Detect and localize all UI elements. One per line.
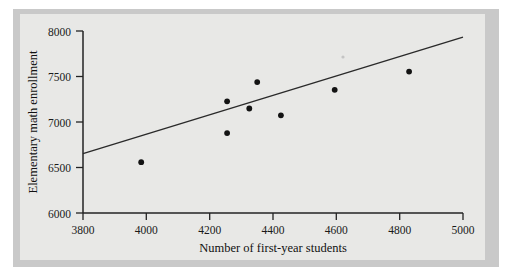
regression-line	[83, 37, 463, 154]
x-axis-ticks	[83, 213, 463, 220]
y-axis-title: Elementary math enrollment	[26, 50, 40, 194]
data-points	[138, 69, 412, 165]
y-tick-label-7000: 7000	[48, 117, 71, 129]
x-tick-label-5000: 5000	[452, 224, 475, 236]
x-tick-label-3800: 3800	[72, 224, 95, 236]
x-tick-label-4400: 4400	[262, 224, 285, 236]
x-tick-label-4200: 4200	[198, 224, 221, 236]
data-point	[246, 106, 252, 112]
data-point	[224, 130, 230, 136]
data-point	[406, 69, 412, 75]
data-point	[254, 79, 260, 85]
x-axis-tick-labels: 3800 4000 4200 4400 4600 4800 5000	[72, 224, 475, 236]
data-point	[138, 159, 144, 165]
data-point	[278, 112, 284, 118]
y-axis-ticks	[76, 31, 83, 213]
y-axis-tick-labels: 8000 7500 7000 6500 6000	[48, 26, 71, 220]
y-tick-label-6000: 6000	[48, 208, 71, 220]
data-point	[224, 98, 230, 104]
y-tick-label-8000: 8000	[48, 26, 71, 38]
x-tick-label-4000: 4000	[135, 224, 158, 236]
figure-root: 8000 7500 7000 6500 6000 3800 4000 4200 …	[0, 0, 511, 278]
y-tick-label-7500: 7500	[48, 71, 71, 83]
scan-artifact-speck	[341, 55, 344, 58]
x-axis-title: Number of first-year students	[199, 241, 347, 255]
x-tick-label-4600: 4600	[325, 224, 348, 236]
data-point	[332, 87, 338, 93]
x-tick-label-4800: 4800	[388, 224, 411, 236]
y-tick-label-6500: 6500	[48, 162, 71, 174]
scatter-plot: 8000 7500 7000 6500 6000 3800 4000 4200 …	[0, 0, 511, 278]
